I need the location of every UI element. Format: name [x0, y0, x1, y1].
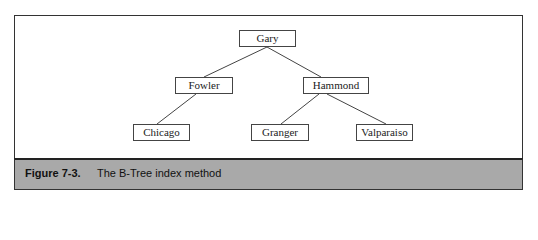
- node-valparaiso: Valparaiso: [356, 124, 413, 141]
- caption-label: Figure 7-3.: [25, 167, 81, 179]
- figure-caption: Figure 7-3. The B-Tree index method: [14, 158, 523, 190]
- node-granger: Granger: [251, 124, 309, 141]
- node-gary: Gary: [239, 30, 296, 47]
- node-hammond: Hammond: [303, 77, 369, 94]
- node-fowler: Fowler: [175, 77, 233, 94]
- node-chicago: Chicago: [133, 124, 190, 141]
- caption-text: The B-Tree index method: [97, 167, 221, 179]
